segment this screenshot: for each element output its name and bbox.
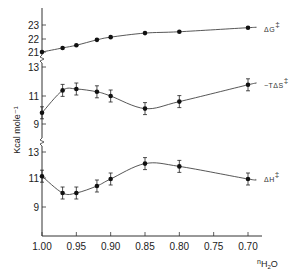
- data-point: [74, 43, 79, 48]
- axis-break-icon: [40, 138, 44, 146]
- axes: [40, 8, 262, 236]
- curves: [42, 27, 256, 194]
- data-point: [95, 184, 100, 189]
- data-point: [108, 94, 113, 99]
- data-point: [143, 31, 148, 36]
- data-point: [143, 161, 148, 166]
- data-point: [246, 177, 251, 182]
- y-tick-label: 11: [29, 173, 40, 184]
- y-tick-label: 23: [28, 20, 40, 31]
- x-tick-label: 0.75: [204, 241, 224, 252]
- series-label-dH: ΔH‡: [264, 170, 280, 183]
- x-tick-label: 0.70: [238, 241, 258, 252]
- curve-TdS: [42, 83, 256, 113]
- data-point: [74, 87, 79, 92]
- data-point: [40, 174, 45, 179]
- data-point: [108, 177, 113, 182]
- x-tick-label: 0.80: [170, 241, 190, 252]
- y-tick-label: 13: [28, 147, 40, 158]
- y-tick-label: 9: [33, 119, 39, 130]
- y-tick-label: 9: [33, 202, 39, 213]
- data-point: [60, 88, 65, 93]
- data-point: [74, 191, 79, 196]
- data-point: [177, 29, 182, 34]
- data-point: [143, 106, 148, 111]
- x-tick-label: 1.00: [32, 241, 52, 252]
- data-points: [40, 25, 251, 199]
- x-axis-label: nH2O: [257, 258, 278, 270]
- data-point: [246, 83, 251, 88]
- data-point: [95, 38, 100, 43]
- data-point: [246, 25, 251, 30]
- data-point: [40, 111, 45, 116]
- y-tick-label: 22: [28, 34, 40, 45]
- data-point: [60, 46, 65, 51]
- series-label-TdS: −TΔS‡: [264, 76, 289, 89]
- data-point: [177, 99, 182, 104]
- labels: 23222113119131191.000.950.900.850.800.75…: [12, 20, 289, 271]
- data-point: [177, 164, 182, 169]
- y-axis-label: Kcal mole⁻¹: [12, 106, 22, 154]
- data-point: [40, 50, 45, 55]
- chart: 23222113119131191.000.950.900.850.800.75…: [0, 0, 299, 276]
- data-point: [95, 90, 100, 95]
- x-tick-label: 0.85: [135, 241, 155, 252]
- y-tick-label: 13: [28, 62, 40, 73]
- series-label-dG: ΔG‡: [264, 20, 280, 33]
- curve-dG: [42, 27, 256, 52]
- x-tick-label: 0.90: [101, 241, 121, 252]
- data-point: [108, 35, 113, 40]
- data-point: [60, 191, 65, 196]
- axis-break-icon: [40, 55, 44, 63]
- x-tick-label: 0.95: [67, 241, 87, 252]
- y-tick-label: 21: [28, 47, 40, 58]
- y-tick-label: 11: [29, 91, 40, 102]
- curve-dH: [42, 163, 256, 195]
